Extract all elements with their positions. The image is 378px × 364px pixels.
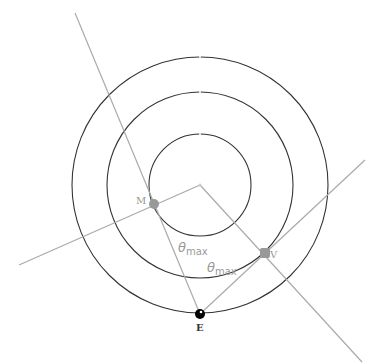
earth-point [195,309,205,319]
line-earth-venus [200,160,365,314]
theta-max-label-venus: θmax [207,260,237,277]
theta-subscript: max [186,246,208,257]
earth-highlight [200,311,203,314]
venus-label: V [269,249,278,260]
earth-label: E [196,322,204,333]
theta-max-label-mercury: θmax [178,240,208,257]
sight-lines [19,13,365,362]
venus-point [260,248,270,258]
line-sun-mercury-ext [19,185,200,265]
theta-subscript: max [215,266,237,277]
theta-symbol: θ [207,260,215,275]
elongation-diagram: M V E θmax θmax [0,0,378,364]
sun-point [199,184,202,187]
mercury-point [149,199,159,209]
theta-symbol: θ [178,240,186,255]
mercury-label: M [136,195,146,206]
